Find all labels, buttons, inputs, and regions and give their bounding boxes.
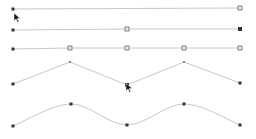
- anchor-node-icon[interactable]: [183, 103, 186, 106]
- anchor-node-icon[interactable]: [12, 48, 15, 51]
- anchor-node-icon[interactable]: [239, 82, 242, 85]
- path-row-2[interactable]: [12, 27, 243, 32]
- anchor-node-icon[interactable]: [12, 83, 15, 86]
- anchor-node-icon[interactable]: [12, 29, 15, 32]
- path-stage[interactable]: [0, 0, 256, 139]
- anchor-node-icon[interactable]: [126, 124, 129, 127]
- selected-node-icon[interactable]: [238, 27, 242, 31]
- handle-node-icon[interactable]: [238, 46, 242, 50]
- handle-node-icon[interactable]: [182, 46, 186, 50]
- handle-node-icon[interactable]: [68, 46, 72, 50]
- handle-node-icon[interactable]: [125, 27, 129, 31]
- mouse-cursor-icon: [14, 13, 20, 22]
- path-segment[interactable]: [13, 8, 240, 9]
- path-editing-canvas[interactable]: [0, 0, 256, 139]
- handle-node-icon[interactable]: [125, 46, 129, 50]
- anchor-node-icon[interactable]: [239, 124, 242, 127]
- path-row-1[interactable]: [12, 6, 243, 11]
- path-row-5[interactable]: [12, 103, 242, 128]
- handle-node-icon[interactable]: [238, 6, 242, 10]
- anchor-node-icon[interactable]: [70, 103, 73, 106]
- path-row-3[interactable]: [12, 46, 243, 51]
- vertex-tick-icon[interactable]: [69, 61, 71, 63]
- anchor-node-icon[interactable]: [12, 8, 15, 11]
- path-row-4[interactable]: [12, 61, 242, 87]
- path-segment[interactable]: [13, 62, 240, 85]
- anchor-node-icon[interactable]: [12, 125, 15, 128]
- vertex-tick-icon[interactable]: [183, 61, 185, 63]
- path-segment[interactable]: [13, 104, 240, 126]
